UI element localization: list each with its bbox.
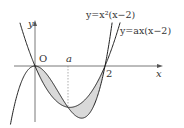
x-axis-label: x [156,68,162,79]
cubic-equation-label: y=x²(x−2) [85,9,135,20]
two-label: 2 [106,68,112,79]
a-label: a [66,53,72,64]
cubic-curve [10,23,112,125]
function-graph: y x O a 2 y=x²(x−2) y=ax(x−2) [0,0,184,128]
y-axis-label: y [27,18,34,29]
origin-label: O [39,53,47,64]
parabola-equation-label: y=ax(x−2) [119,25,171,36]
